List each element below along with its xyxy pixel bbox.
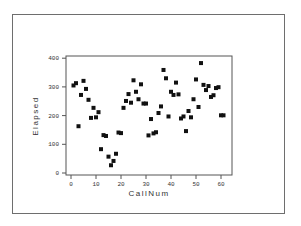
data-point (99, 147, 103, 151)
data-point (112, 159, 116, 163)
data-point (149, 117, 153, 121)
data-point (207, 84, 211, 88)
data-point (79, 93, 83, 97)
y-tick-label: 200 (48, 113, 59, 120)
x-tick-label: 10 (92, 181, 100, 188)
data-point (222, 113, 226, 117)
data-point (107, 155, 111, 159)
data-point (109, 163, 113, 167)
y-tick-label: 0 (55, 170, 59, 177)
x-tick-label: 30 (142, 181, 150, 188)
data-point (157, 111, 161, 115)
data-point (87, 98, 91, 102)
data-point (114, 152, 118, 156)
x-tick-label: 0 (69, 181, 73, 188)
data-point (97, 110, 101, 114)
data-point (129, 101, 133, 105)
data-point (134, 90, 138, 94)
data-point (197, 105, 201, 109)
data-point (192, 97, 196, 101)
scatter-chart: 0100200300400 0102030405060 CallNum Elap… (0, 0, 301, 226)
data-point (217, 85, 221, 89)
data-point (177, 92, 181, 96)
data-point (119, 131, 123, 135)
y-tick-label: 300 (48, 84, 59, 91)
data-point (127, 92, 131, 96)
data-point (184, 129, 188, 133)
x-axis: 0102030405060 (69, 175, 225, 188)
data-point (89, 116, 93, 120)
data-point (137, 97, 141, 101)
data-point (132, 78, 136, 82)
x-tick-label: 60 (217, 181, 225, 188)
data-point (194, 77, 198, 81)
x-tick-label: 50 (192, 181, 200, 188)
data-point (154, 130, 158, 134)
x-tick-label: 20 (117, 181, 125, 188)
data-point (77, 124, 81, 128)
y-tick-label: 400 (48, 55, 59, 62)
data-point (182, 114, 186, 118)
data-point (212, 93, 216, 97)
y-tick-label: 100 (48, 141, 59, 148)
data-point (139, 82, 143, 86)
data-point (104, 134, 108, 138)
data-point (84, 87, 88, 91)
data-point (199, 61, 203, 65)
data-point (167, 114, 171, 118)
x-tick-label: 40 (167, 181, 175, 188)
plot-area-frame (66, 56, 232, 175)
data-point (92, 106, 96, 110)
data-point (172, 93, 176, 97)
x-axis-title: CallNum (128, 189, 169, 198)
data-point (122, 106, 126, 110)
data-point (204, 88, 208, 92)
data-point (82, 79, 86, 83)
data-point (124, 99, 128, 103)
data-point (94, 115, 98, 119)
data-point (189, 115, 193, 119)
data-point (74, 81, 78, 85)
data-point (144, 102, 148, 106)
y-axis: 0100200300400 (48, 55, 66, 177)
y-axis-title: Elapsed (31, 96, 40, 135)
data-point (164, 76, 168, 80)
data-point (147, 133, 151, 137)
data-point (174, 81, 178, 85)
data-point (202, 83, 206, 87)
data-points (72, 61, 226, 167)
data-point (187, 109, 191, 113)
data-point (162, 68, 166, 72)
data-point (159, 104, 163, 108)
